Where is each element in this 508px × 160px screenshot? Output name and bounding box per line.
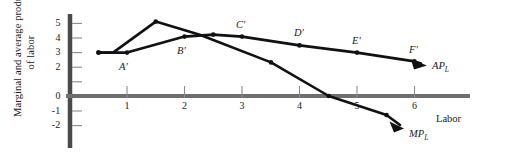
x-tick-label-6: 6 (407, 100, 423, 111)
marker-a-prime (125, 50, 130, 55)
mp-l-base: MP (409, 128, 424, 139)
point-label-d-prime: D′ (294, 27, 304, 38)
chart-figure: Marginal and average productof labor Lab… (0, 0, 508, 160)
x-tick-label-2: 2 (177, 100, 193, 111)
marker-b-prime (182, 34, 187, 39)
x-tick-label-5: 5 (349, 100, 365, 111)
y-axis-title-line1: Marginal and average product (12, 0, 23, 117)
marker-mp-4 (326, 94, 331, 99)
curve-label-ap-l: APL (432, 60, 449, 74)
x-tick-label-3: 3 (234, 100, 250, 111)
y-tick-label-neg1: -1 (46, 105, 66, 116)
x-axis-title: Labor (436, 113, 461, 124)
marker-f-prime (412, 59, 417, 64)
marker-d-prime (297, 43, 302, 48)
y-axis-title: Marginal and average productof labor (12, 0, 37, 123)
x-tick-label-4: 4 (292, 100, 308, 111)
ap-l-subscript: L (445, 65, 449, 74)
y-tick-label-0: 0 (50, 90, 66, 101)
ap-l-base: AP (432, 60, 445, 71)
point-label-f-prime: F′ (409, 44, 418, 55)
point-label-c-prime: C′ (236, 19, 245, 30)
marker-mp-peak (153, 19, 158, 24)
curve-label-mp-l: MPL (409, 128, 428, 142)
y-axis-title-line2: of labor (24, 36, 35, 70)
y-tick-label-5: 5 (50, 17, 66, 28)
x-tick-label-1: 1 (119, 100, 135, 111)
point-label-e-prime: E′ (352, 35, 361, 46)
y-tick-label-4: 4 (50, 32, 66, 43)
marker-mp-cross (211, 32, 216, 37)
y-tick-label-neg2: -2 (46, 119, 66, 130)
marker-mp-5 (384, 113, 389, 118)
marker-e-prime (355, 50, 360, 55)
chart-plot-area (0, 0, 508, 160)
marker-mp-start (96, 50, 101, 55)
point-label-b-prime: B′ (177, 45, 186, 56)
marker-mp-3 (269, 60, 274, 65)
y-tick-marks (72, 23, 82, 125)
mp-l-subscript: L (424, 133, 428, 142)
y-tick-label-3: 3 (50, 46, 66, 57)
y-tick-label-2: 2 (50, 61, 66, 72)
point-label-a-prime: A′ (119, 61, 128, 72)
marker-c-prime (240, 34, 245, 39)
